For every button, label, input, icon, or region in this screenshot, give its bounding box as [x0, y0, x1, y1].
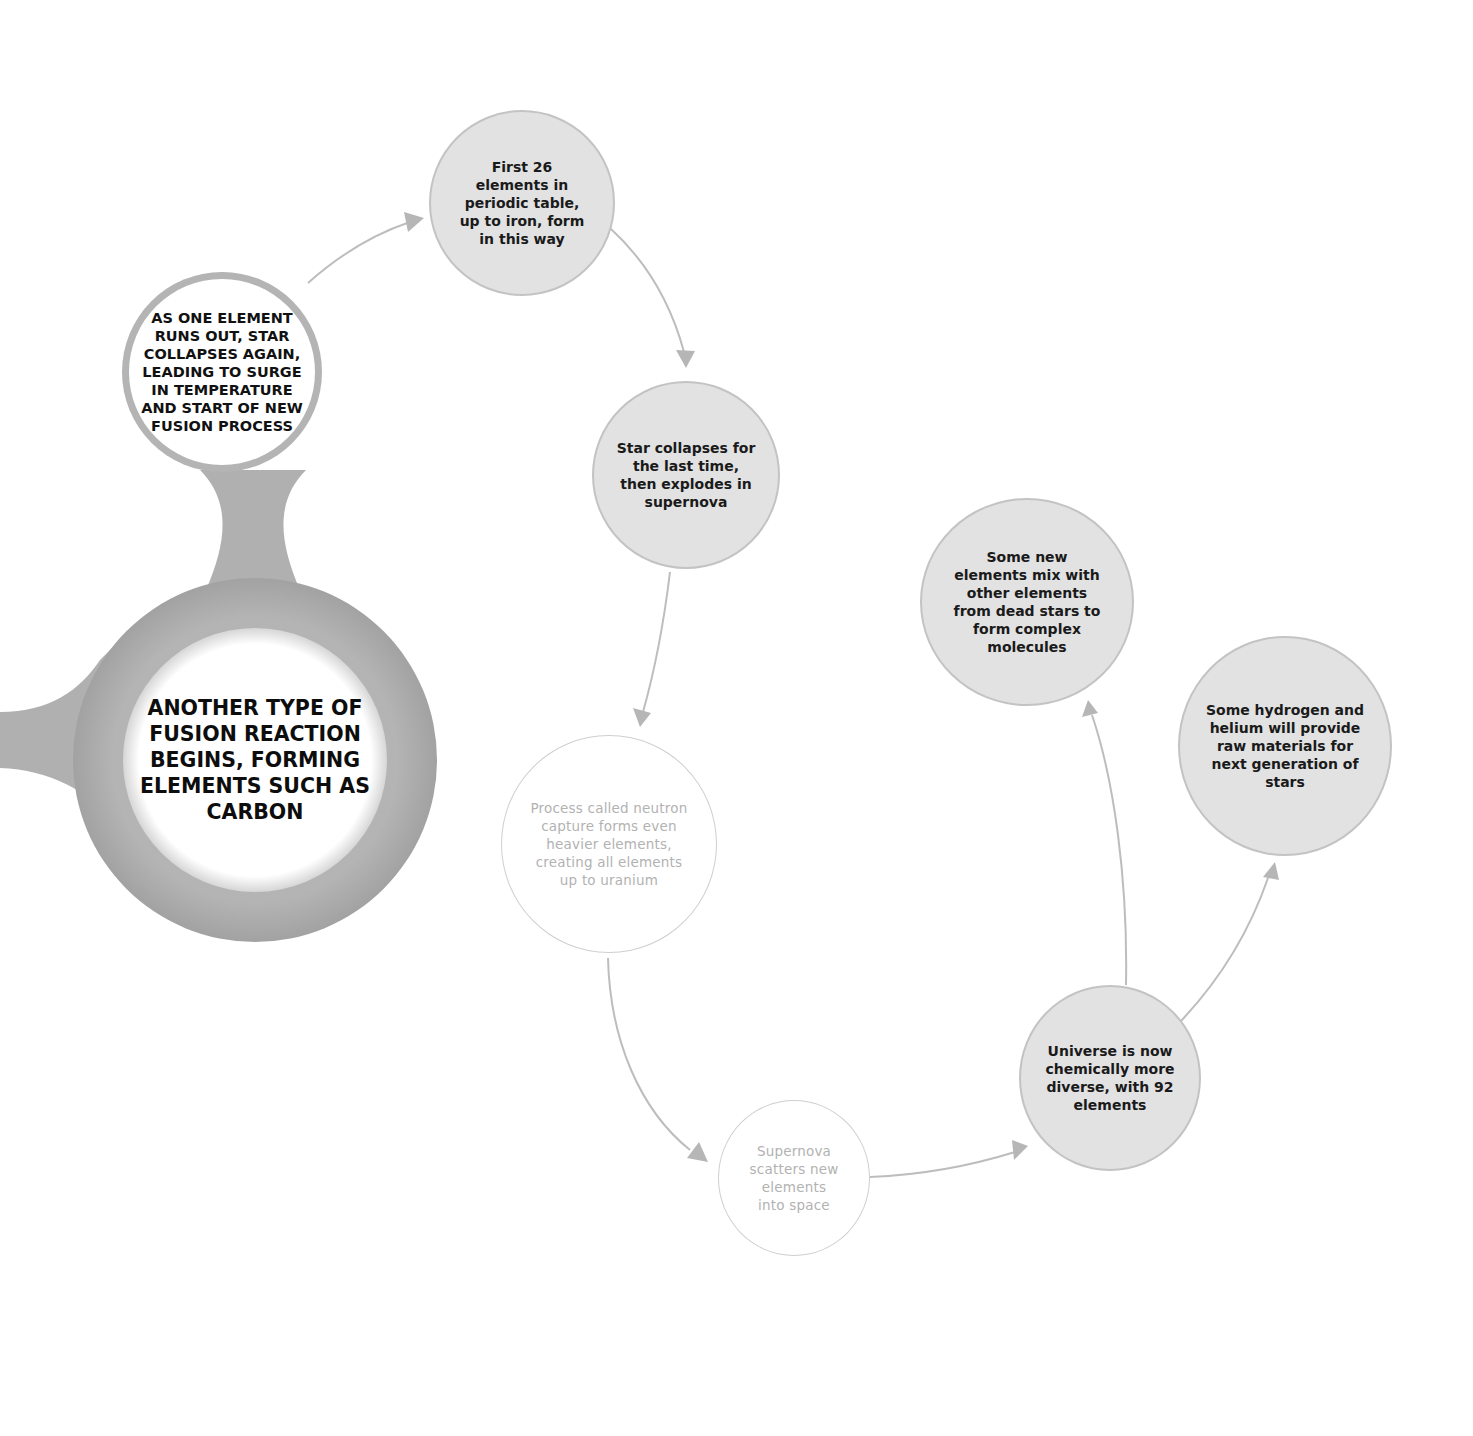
edge-first26-to-lastcollapse [610, 228, 684, 352]
neck-connector [200, 470, 306, 590]
node-label: Star collapses for the last time, then e… [616, 439, 756, 511]
node-label: First 26 elements in periodic table, up … [457, 158, 587, 248]
arrowhead-icon [1263, 862, 1279, 880]
edge-universe-to-nextgen [1180, 878, 1268, 1022]
edge-lastcollapse-to-neutron [643, 572, 670, 712]
arrowhead-icon [676, 350, 695, 368]
arrowhead-icon [1082, 700, 1098, 717]
arrowhead-icon [687, 1142, 708, 1162]
node-last-collapse-supernova: Star collapses for the last time, then e… [592, 381, 780, 569]
node-next-generation-stars: Some hydrogen and helium will provide ra… [1178, 636, 1392, 856]
node-label: Some new elements mix with other element… [952, 548, 1102, 656]
edge-scatter-to-universe [870, 1152, 1015, 1177]
node-label: Universe is now chemically more diverse,… [1039, 1042, 1181, 1114]
node-another-fusion-reaction: ANOTHER TYPE OF FUSION REACTION BEGINS, … [123, 628, 387, 892]
node-label: AS ONE ELEMENT RUNS OUT, STAR COLLAPSES … [140, 309, 304, 435]
node-supernova-scatters: Supernova scatters new elements into spa… [718, 1100, 870, 1256]
edge-universe-to-molecules [1092, 715, 1126, 985]
arrowhead-icon [633, 708, 651, 727]
node-label: Supernova scatters new elements into spa… [749, 1142, 839, 1214]
node-universe-diverse: Universe is now chemically more diverse,… [1019, 985, 1201, 1171]
node-first-26-elements: First 26 elements in periodic table, up … [429, 110, 615, 296]
arrowhead-icon [1012, 1140, 1028, 1160]
node-neutron-capture: Process called neutron capture forms eve… [501, 735, 717, 953]
node-star-collapses-again: AS ONE ELEMENT RUNS OUT, STAR COLLAPSES … [130, 280, 314, 464]
node-complex-molecules: Some new elements mix with other element… [920, 498, 1134, 706]
node-label: Some hydrogen and helium will provide ra… [1200, 701, 1370, 791]
node-label: ANOTHER TYPE OF FUSION REACTION BEGINS, … [137, 695, 373, 825]
edge-collapse-to-first26 [308, 222, 410, 283]
arrowhead-icon [404, 212, 424, 232]
edge-neutron-to-scatter [608, 958, 690, 1150]
node-label: Process called neutron capture forms eve… [530, 799, 688, 889]
